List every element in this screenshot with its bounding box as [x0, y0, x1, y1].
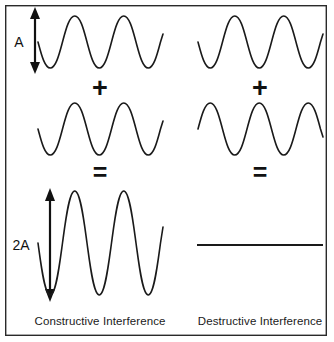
- arrow-head-down-icon: [30, 62, 40, 74]
- amplitude-label-2A: 2A: [12, 238, 29, 252]
- wave-left-input-2: [38, 103, 163, 155]
- operator-equals-right: =: [253, 160, 268, 185]
- diagram-canvas: [0, 0, 334, 342]
- figure-border: [6, 6, 327, 336]
- wave-left-input-1: [38, 16, 163, 68]
- arrow-head-up-icon: [45, 188, 55, 201]
- wave-right-input-1: [198, 16, 323, 68]
- operator-plus-right: +: [252, 75, 268, 102]
- wave-right-input-2-inverted: [198, 103, 323, 155]
- operator-equals-left: =: [93, 160, 108, 185]
- amplitude-arrow-2A: [45, 188, 55, 302]
- caption-destructive-interference: Destructive Interference: [198, 316, 322, 328]
- caption-constructive-interference: Constructive Interference: [35, 316, 166, 328]
- wave-interference-figure: + = + = A 2A Constructive Interference D…: [0, 0, 334, 342]
- wave-left-result-sum: [38, 191, 163, 295]
- amplitude-label-A: A: [14, 35, 23, 49]
- operator-plus-left: +: [92, 75, 108, 102]
- arrow-head-up-icon: [30, 7, 40, 19]
- amplitude-arrow-A: [30, 7, 40, 74]
